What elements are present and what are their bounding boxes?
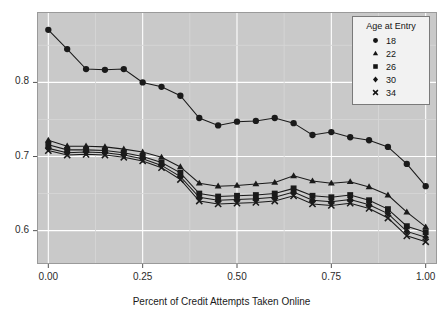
x-axis-tick-label: 0.75	[306, 271, 356, 282]
data-point-18	[290, 120, 296, 126]
data-point-18	[121, 66, 127, 72]
data-point-18	[404, 161, 410, 167]
x-axis-tick-label: 0.25	[118, 271, 168, 282]
legend-marker-cross-icon	[370, 87, 381, 98]
data-point-18	[423, 183, 429, 189]
legend-label: 34	[386, 88, 396, 98]
data-point-18	[234, 119, 240, 125]
data-point-18	[139, 79, 145, 85]
data-point-18	[347, 134, 353, 140]
data-point-18	[64, 46, 70, 52]
legend-title: Age at Entry	[358, 21, 424, 31]
data-point-18	[177, 93, 183, 99]
legend-item-26[interactable]: 26	[358, 60, 424, 73]
data-point-18	[102, 67, 108, 73]
data-point-18	[215, 122, 221, 128]
legend-label: 18	[386, 36, 396, 46]
y-axis-tick-label: 0.8	[0, 75, 29, 86]
legend-marker-diamond-icon	[370, 74, 381, 85]
legend-marker-circle-icon	[370, 35, 381, 46]
legend: Age at Entry1822263034	[352, 16, 430, 105]
data-point-18	[158, 84, 164, 90]
legend-label: 22	[386, 49, 396, 59]
data-point-18	[272, 115, 278, 121]
legend-item-22[interactable]: 22	[358, 47, 424, 60]
y-axis-tick-label: 0.6	[0, 224, 29, 235]
x-axis-title: Percent of Credit Attempts Taken Online	[0, 296, 443, 307]
data-point-18	[309, 132, 315, 138]
legend-label: 26	[386, 62, 396, 72]
data-point-18	[328, 129, 334, 135]
data-point-18	[45, 27, 51, 33]
data-point-18	[196, 115, 202, 121]
legend-label: 30	[386, 75, 396, 85]
data-point-18	[385, 144, 391, 150]
data-point-18	[366, 137, 372, 143]
legend-item-18[interactable]: 18	[358, 34, 424, 47]
legend-marker-triangle-icon	[370, 48, 381, 59]
legend-marker-square-icon	[370, 61, 381, 72]
chart-container: 0.60.70.80.000.250.500.751.00Percent of …	[0, 0, 443, 320]
y-axis-tick-label: 0.7	[0, 150, 29, 161]
legend-item-34[interactable]: 34	[358, 86, 424, 99]
data-point-18	[253, 118, 259, 124]
legend-item-30[interactable]: 30	[358, 73, 424, 86]
x-axis-tick-label: 1.00	[401, 271, 443, 282]
x-axis-tick-label: 0.00	[23, 271, 73, 282]
x-axis-tick-label: 0.50	[212, 271, 262, 282]
data-point-18	[83, 66, 89, 72]
